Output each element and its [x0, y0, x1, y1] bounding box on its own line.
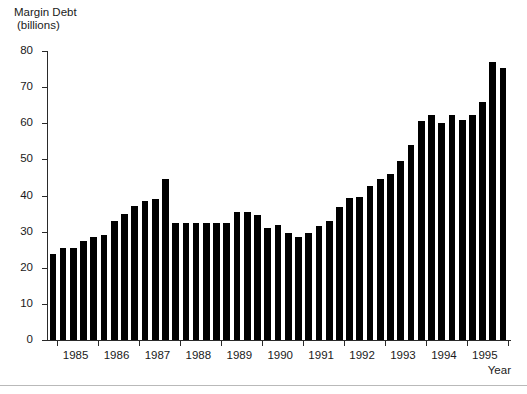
- plot-area: 01020304050607080 1985198619871988198919…: [47, 52, 511, 341]
- bar: [336, 207, 343, 340]
- bar: [397, 161, 404, 340]
- x-axis-year-label: 1986: [104, 349, 130, 361]
- bar: [203, 223, 210, 340]
- x-axis-tick: [385, 341, 386, 346]
- y-axis-tick-label: 70: [20, 80, 33, 92]
- bar: [408, 145, 415, 340]
- y-axis-tick-label: 50: [20, 152, 33, 164]
- bar: [50, 254, 57, 340]
- x-axis-tick: [57, 341, 58, 346]
- bar: [183, 223, 190, 340]
- bar: [500, 68, 507, 340]
- x-axis-tick: [180, 341, 181, 346]
- bar: [275, 225, 282, 340]
- bottom-divider: [0, 385, 527, 386]
- y-axis-tick: 70: [42, 87, 48, 88]
- y-axis-tick: 20: [42, 268, 48, 269]
- bar: [111, 221, 118, 340]
- bar: [295, 237, 302, 340]
- y-axis-tick-label: 30: [20, 225, 33, 237]
- bar: [121, 214, 128, 340]
- y-axis-tick-label: 20: [20, 261, 33, 273]
- bar: [418, 121, 425, 340]
- chart-title-line1: Margin Debt: [14, 6, 77, 19]
- x-axis-year-label: 1987: [145, 349, 171, 361]
- y-axis-tick-label: 80: [20, 44, 33, 56]
- bar: [459, 120, 466, 340]
- bar: [80, 241, 87, 340]
- x-axis-year-label: 1995: [472, 349, 498, 361]
- x-axis-year-label: 1990: [267, 349, 293, 361]
- y-axis-tick: 30: [42, 232, 48, 233]
- y-axis-tick: 50: [42, 159, 48, 160]
- y-axis-tick: 60: [42, 123, 48, 124]
- bar: [244, 212, 251, 340]
- chart-title: Margin Debt (billions): [14, 6, 77, 32]
- bar: [60, 248, 67, 340]
- bar: [101, 235, 108, 340]
- bar: [172, 223, 179, 340]
- bar: [193, 223, 200, 340]
- bar: [346, 198, 353, 340]
- y-axis-tick-label: 10: [20, 297, 33, 309]
- x-axis-tick: [139, 341, 140, 346]
- bar: [213, 223, 220, 340]
- bar: [142, 201, 149, 340]
- bar: [131, 206, 138, 340]
- y-axis-tick-label: 0: [27, 333, 33, 345]
- x-axis-year-label: 1992: [349, 349, 375, 361]
- bar: [223, 223, 230, 340]
- bar: [316, 226, 323, 340]
- bar: [377, 179, 384, 340]
- bar: [264, 228, 271, 340]
- x-axis-year-label: 1993: [390, 349, 416, 361]
- bar: [162, 179, 169, 340]
- x-axis-year-label: 1985: [63, 349, 89, 361]
- y-axis-tick: 80: [42, 51, 48, 52]
- x-axis-tick: [221, 341, 222, 346]
- bar: [152, 199, 159, 340]
- chart-title-line2: (billions): [14, 19, 77, 32]
- y-axis-tick: 40: [42, 196, 48, 197]
- bar: [305, 233, 312, 340]
- bar: [234, 212, 241, 340]
- bar: [70, 248, 77, 340]
- bar: [254, 215, 261, 340]
- x-axis-year-label: 1991: [308, 349, 334, 361]
- x-axis-tick: [508, 341, 509, 346]
- bar: [387, 174, 394, 340]
- y-axis-tick-label: 60: [20, 116, 33, 128]
- x-axis-year-label: 1989: [226, 349, 252, 361]
- x-axis-tick: [426, 341, 427, 346]
- bar: [438, 123, 445, 340]
- bar: [356, 197, 363, 340]
- bar: [489, 62, 496, 340]
- bar: [285, 233, 292, 340]
- x-axis-line: [47, 340, 511, 341]
- bar: [469, 115, 476, 340]
- x-axis-tick: [98, 341, 99, 346]
- x-axis-tick: [344, 341, 345, 346]
- x-axis-caption: Year: [488, 364, 511, 376]
- y-axis-tick: 10: [42, 304, 48, 305]
- y-axis-tick: 0: [42, 340, 48, 341]
- y-axis-line: [47, 52, 48, 341]
- bar: [428, 115, 435, 340]
- bar: [449, 115, 456, 340]
- bar: [326, 221, 333, 340]
- x-axis-tick: [467, 341, 468, 346]
- margin-debt-bar-chart: Margin Debt (billions) 01020304050607080…: [0, 0, 527, 394]
- bar: [90, 237, 97, 340]
- x-axis-tick: [303, 341, 304, 346]
- bar: [479, 102, 486, 340]
- x-axis-tick: [262, 341, 263, 346]
- bar: [367, 186, 374, 340]
- x-axis-year-label: 1994: [431, 349, 457, 361]
- x-axis-year-label: 1988: [186, 349, 212, 361]
- y-axis-tick-label: 40: [20, 189, 33, 201]
